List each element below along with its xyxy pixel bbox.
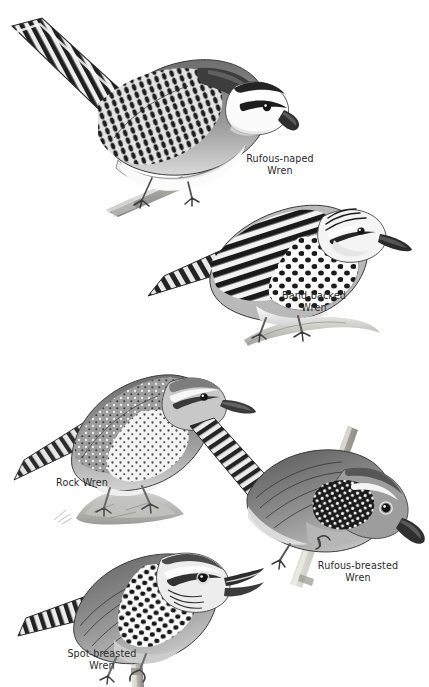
species-name-line-2: Wren (46, 660, 158, 672)
bird-illustration-band-backed-wren (148, 178, 429, 348)
species-name-line-1: Band-backed (262, 290, 366, 302)
species-label-band-backed-wren: Band-backed Wren (262, 290, 366, 315)
species-name-line-2: Wren (300, 572, 416, 584)
species-label-rock-wren: Rock Wren (36, 477, 128, 489)
species-label-rufous-naped-wren: Rufous-naped Wren (228, 153, 332, 178)
species-label-spot-breasted-wren: Spot-breasted Wren (46, 648, 158, 673)
species-label-rufous-breasted-wren: Rufous-breasted Wren (300, 560, 416, 585)
species-name-line-1: Rufous-breasted (300, 560, 416, 572)
species-name-line-1: Spot-breasted (46, 648, 158, 660)
head (157, 553, 264, 612)
head (318, 209, 412, 262)
species-name-line-1: Rock Wren (36, 477, 128, 489)
illustration-plate: Rufous-naped Wren (0, 0, 429, 687)
species-name-line-2: Wren (262, 302, 366, 314)
species-name-line-2: Wren (228, 165, 332, 177)
species-name-line-1: Rufous-naped (228, 153, 332, 165)
head (226, 82, 300, 136)
